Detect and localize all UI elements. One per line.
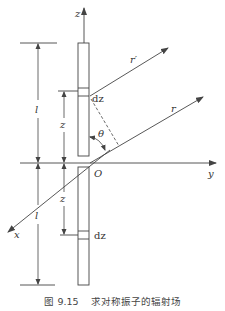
figure-caption: 图 9.15 求对称振子的辐射场 <box>0 294 225 308</box>
upper-dipole-arm <box>78 43 89 156</box>
r-prime-label: r′ <box>130 54 138 65</box>
dipole-diagram: z y O x r′ r θ dz dz l l z z <box>0 0 225 311</box>
z-top-label: z <box>59 119 66 130</box>
r-prime-ray <box>90 48 168 96</box>
dz-label-upper: dz <box>92 93 104 104</box>
origin-label: O <box>94 168 102 179</box>
x-axis-label: x <box>14 229 20 240</box>
z-axis-label: z <box>74 8 81 19</box>
l-bottom-label: l <box>35 210 38 221</box>
r-ray <box>90 97 203 163</box>
x-axis <box>8 150 110 232</box>
z-bottom-label: z <box>59 193 66 204</box>
l-top-label: l <box>35 104 38 115</box>
lower-dipole-arm <box>78 167 89 285</box>
path-difference-dashed-line <box>91 99 119 146</box>
dz-label-lower: dz <box>94 230 106 241</box>
theta-angle-arc-start <box>90 137 95 138</box>
theta-label: θ <box>98 128 104 139</box>
y-axis-label: y <box>207 168 214 179</box>
